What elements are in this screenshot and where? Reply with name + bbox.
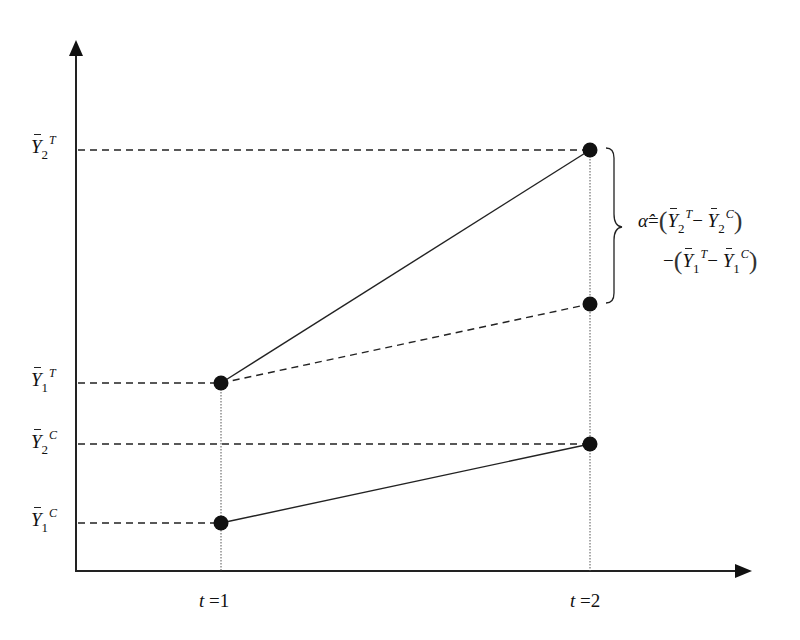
y-label-y2t: Y2T bbox=[31, 137, 56, 156]
alpha-hat: α̂ bbox=[638, 210, 648, 231]
y-label-y1t: Y1T bbox=[31, 370, 56, 389]
point-y1t bbox=[214, 376, 229, 391]
point-y2c bbox=[583, 437, 598, 452]
counterfactual-trend-line bbox=[221, 304, 590, 383]
y-axis-arrow-icon bbox=[69, 40, 83, 56]
point-y2t bbox=[583, 143, 598, 158]
did-estimator-formula-line2: −(Y1T− Y1C) bbox=[663, 246, 757, 272]
point-counterfactual bbox=[583, 297, 598, 312]
y-label-y1c: Y1C bbox=[31, 510, 57, 529]
treatment-line bbox=[221, 150, 590, 383]
did-diagram-canvas bbox=[0, 0, 800, 640]
x-tick-t2: t =2 bbox=[570, 591, 600, 610]
x-axis-arrow-icon bbox=[735, 564, 752, 578]
curly-brace-icon bbox=[606, 148, 622, 303]
control-line bbox=[221, 444, 590, 523]
x-tick-t1: t =1 bbox=[199, 591, 229, 610]
point-y1c bbox=[214, 516, 229, 531]
y-label-y2c: Y2C bbox=[31, 432, 57, 451]
did-estimator-formula-line1: α̂=(Y2T− Y2C) bbox=[638, 206, 742, 232]
